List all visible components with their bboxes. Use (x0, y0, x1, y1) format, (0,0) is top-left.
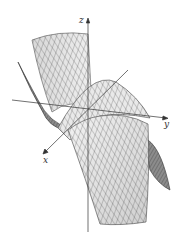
surface-front-sheet (68, 115, 149, 225)
z-axis-label: z (79, 16, 84, 25)
y-axis-label: y (164, 120, 169, 129)
surface-figure: z y x (0, 0, 177, 238)
z-axis-arrow-icon (86, 18, 89, 23)
surface-plot (0, 0, 177, 238)
x-axis-label: x (43, 156, 48, 165)
surface-right-wing (147, 140, 170, 190)
